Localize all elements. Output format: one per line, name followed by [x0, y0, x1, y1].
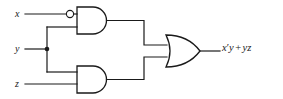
logic-circuit-diagram: x y z x′y+yz — [0, 0, 283, 99]
and-gate-top-body — [77, 7, 107, 34]
output-term-y: y — [229, 42, 234, 53]
and-gate-bottom-body — [77, 66, 107, 93]
junction-dot-y — [45, 47, 50, 52]
wire-and-top-to-or — [107, 21, 168, 46]
inverter-bubble-icon — [66, 10, 73, 17]
input-label-y: y — [15, 44, 19, 54]
or-gate-body — [166, 35, 200, 67]
output-expression-label: x′y+yz — [222, 43, 251, 54]
wire-and-bottom-to-or — [107, 57, 168, 80]
output-term-yz: yz — [243, 42, 252, 53]
output-operator-plus: + — [234, 42, 243, 53]
input-label-z: z — [15, 79, 19, 89]
input-label-x: x — [15, 9, 19, 19]
